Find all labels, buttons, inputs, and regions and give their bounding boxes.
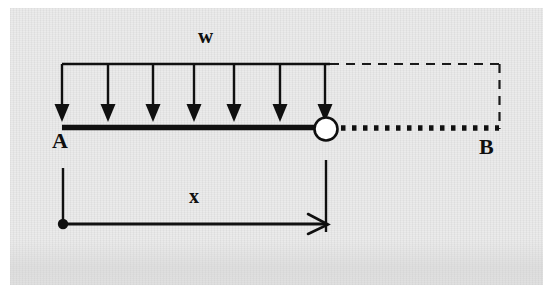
load-arrow (227, 64, 242, 122)
load-arrow (273, 64, 288, 122)
load-arrow-group (55, 64, 333, 122)
load-arrow (146, 64, 161, 122)
point-b-label: B (479, 136, 494, 158)
figure-caption (0, 290, 553, 304)
load-arrow (55, 64, 70, 122)
load-arrow (318, 64, 333, 122)
load-arrow (187, 64, 202, 122)
beam-diagram-figure: w A B x (0, 0, 553, 306)
beam-diagram-svg (0, 0, 553, 306)
distributed-load-label: w (198, 26, 213, 47)
point-a-label: A (52, 130, 68, 152)
hinge-circle (315, 118, 338, 141)
distance-x-label: x (189, 186, 199, 206)
load-arrow (101, 64, 116, 122)
